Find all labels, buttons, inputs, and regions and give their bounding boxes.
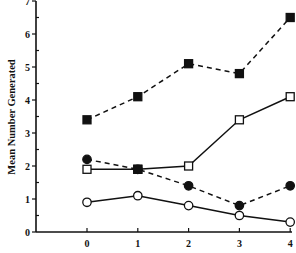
open-circle-marker xyxy=(184,201,192,209)
y-tick-label: 7 xyxy=(25,0,30,7)
open-circle-marker xyxy=(235,211,243,219)
filled-square-marker xyxy=(235,70,243,78)
filled-square-marker xyxy=(286,14,294,22)
open-square-marker xyxy=(185,162,193,170)
filled-circle-marker xyxy=(235,201,243,209)
open-circle-marker xyxy=(83,198,91,206)
y-tick-label: 4 xyxy=(25,95,30,106)
y-tick-label: 0 xyxy=(25,227,30,238)
x-tick-label: 3 xyxy=(237,238,242,249)
open-circle-marker xyxy=(134,192,142,200)
filled-square-marker xyxy=(83,116,91,124)
x-tick-label: 0 xyxy=(85,238,90,249)
open-square-marker xyxy=(83,165,91,173)
y-tick-label: 6 xyxy=(25,29,30,40)
x-tick-label: 1 xyxy=(135,238,140,249)
y-tick-label: 5 xyxy=(25,62,30,73)
filled-circle-marker xyxy=(184,182,192,190)
line-chart: 0123456701234 xyxy=(0,0,296,253)
open-square-marker xyxy=(286,93,294,101)
y-tick-label: 2 xyxy=(25,161,30,172)
y-axis-label: Mean Number Generated xyxy=(6,42,20,192)
x-tick-label: 2 xyxy=(186,238,191,249)
open-square-marker xyxy=(235,116,243,124)
y-tick-label: 1 xyxy=(25,194,30,205)
open-circle-marker xyxy=(286,218,294,226)
filled-square-marker xyxy=(185,60,193,68)
filled-circle-marker xyxy=(286,182,294,190)
filled-circle-marker xyxy=(83,155,91,163)
series-line-0 xyxy=(87,18,290,120)
x-tick-label: 4 xyxy=(288,238,293,249)
series-line-1 xyxy=(87,97,290,170)
overlap-filled-square-marker xyxy=(134,165,142,173)
y-tick-label: 3 xyxy=(25,128,30,139)
filled-square-marker xyxy=(134,93,142,101)
